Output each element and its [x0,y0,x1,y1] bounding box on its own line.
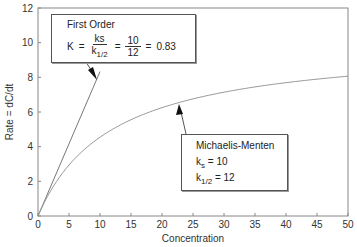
first-order-annotation: First Order K = ks k1/2 = 10 12 = 0.83 [51,14,196,63]
symbolic-fraction: ks k1/2 [90,33,110,60]
arrowhead-icon [176,104,183,115]
arrowhead-icon [88,67,97,80]
x-tick-label: 5 [66,219,72,230]
first-order-equation: K = ks k1/2 = 10 12 = 0.83 [67,33,176,60]
x-tick-label: 50 [342,219,354,230]
x-tick-label: 20 [156,219,168,230]
fraction-denominator: k1/2 [90,45,110,60]
x-tick-label: 25 [187,219,199,230]
equals-sign: = [115,41,121,52]
y-tick-label: 10 [22,37,34,48]
y-tick-label: 8 [27,72,33,83]
x-tick-label: 30 [218,219,230,230]
fraction-numerator: ks [93,33,107,45]
k-symbol: K [67,41,74,52]
fraction-denominator: 12 [125,47,140,58]
x-axis-title: Concentration [162,233,224,244]
x-tick-label: 0 [35,219,41,230]
ks-value: ks = 10 [196,156,228,170]
y-tick-label: 4 [27,141,33,152]
k-result: 0.83 [156,41,175,52]
annotation-title: Michaelis-Menten [196,140,274,151]
y-tick-label: 6 [27,107,33,118]
annotation-title: First Order [67,19,115,30]
y-tick-label: 0 [27,211,33,222]
k-half-value: k1/2 = 12 [196,172,235,186]
x-tick-label: 45 [311,219,323,230]
numeric-fraction: 10 12 [125,35,140,58]
fraction-numerator: 10 [125,35,140,47]
michaelis-menten-annotation: Michaelis-Menten ks = 10 k1/2 = 12 [181,134,288,191]
x-tick-label: 35 [249,219,261,230]
y-tick-label: 2 [27,176,33,187]
x-tick-label: 15 [125,219,137,230]
first-order-arrow [86,62,97,80]
equals-sign: = [79,41,85,52]
y-tick-label: 12 [22,3,34,14]
equals-sign: = [146,41,152,52]
michaelis-menten-arrow [176,104,186,134]
x-tick-label: 40 [280,219,292,230]
y-axis-title: Rate = dC/dt [4,84,15,141]
x-tick-label: 10 [94,219,106,230]
